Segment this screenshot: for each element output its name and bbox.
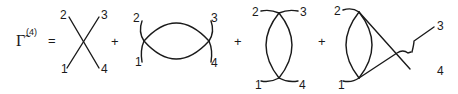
plus-sign-3: +: [318, 34, 326, 49]
leg-label-4: 4: [437, 64, 444, 78]
leg-label-2: 2: [334, 4, 341, 18]
leg-label-1: 1: [135, 55, 142, 69]
leg-label-1: 1: [255, 78, 262, 92]
leg-label-3: 3: [101, 8, 108, 22]
leg-label-1: 1: [61, 62, 68, 76]
leg-label-2: 2: [252, 5, 259, 19]
leg-label-4: 4: [211, 56, 218, 70]
leg-label-3: 3: [300, 5, 307, 19]
leg-label-3: 3: [437, 19, 444, 33]
diagram-tree-vertex: 2 3 1 4: [60, 8, 108, 76]
feynman-diagram-equation: Γ̃ (4) = 2 3 1 4 + 2 3 1 4 + 2 3 1 4 +: [0, 0, 458, 94]
plus-sign-2: +: [234, 34, 242, 49]
diagram-s-channel: 2 3 1 4: [133, 11, 218, 70]
diagram-u-channel: 2 3 1 4: [334, 4, 444, 92]
diagram-t-channel: 2 3 1 4: [252, 5, 307, 92]
leg-label-2: 2: [133, 11, 140, 25]
equals-sign: =: [48, 33, 56, 48]
plus-sign-1: +: [111, 34, 119, 49]
leg-label-4: 4: [101, 62, 108, 76]
gamma-symbol: Γ̃ (4): [16, 27, 37, 49]
leg-label-3: 3: [211, 11, 218, 25]
leg-label-4: 4: [299, 78, 306, 92]
svg-text:(4): (4): [26, 27, 37, 37]
leg-label-1: 1: [338, 78, 345, 92]
leg-label-2: 2: [60, 8, 67, 22]
